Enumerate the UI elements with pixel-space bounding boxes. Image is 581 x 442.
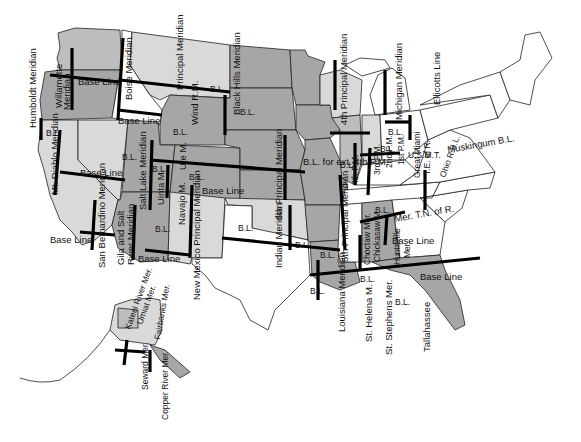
label-baseline-ca: Base Line xyxy=(80,167,122,178)
label-tallahassee: Tallahassee xyxy=(421,302,432,352)
label-nm-principal: New Mexico Principal Meridian xyxy=(191,170,202,300)
state-new-england xyxy=(500,32,552,105)
label-ute: Ute M. xyxy=(177,142,188,170)
label-humboldt: Humboldt Meridian xyxy=(27,48,38,128)
label-boise: Boise Meridian xyxy=(123,37,134,100)
label-bl-ar: B.L. xyxy=(320,250,335,260)
label-ellicotts: Ellicotts Line xyxy=(431,52,442,105)
label-4th-pm: 4th Principal Meridian xyxy=(338,34,349,125)
label-bl-uinta: B.L. xyxy=(152,164,167,174)
label-bl-fl: B.L. xyxy=(395,297,410,307)
label-huntsville: Huntsville xyxy=(392,228,402,265)
label-bl-tx: B.L. xyxy=(238,223,253,233)
state-arkansas xyxy=(305,205,342,242)
label-5th-pm: 5th Principal Meridian xyxy=(339,171,350,262)
label-michigan: Michigan Meridian xyxy=(393,43,404,120)
us-meridians-map: Humboldt Meridian Willamette Meridian Bo… xyxy=(0,0,581,442)
label-bl-black-hills: B.L. xyxy=(240,107,255,117)
label-bl-la: B.L. xyxy=(310,286,325,296)
label-seward: Seward Mer. xyxy=(140,342,150,390)
label-chickasaw: Chickasaw M. xyxy=(372,209,382,262)
label-gila-salt-2: River Meridian xyxy=(125,204,136,265)
label-baseline-az: Base Line xyxy=(138,253,180,264)
label-bl-il: B.L. xyxy=(340,160,355,170)
label-mt-diablo: Mt. Diablo Meridian xyxy=(49,113,60,195)
label-willamette-2: Meridian xyxy=(61,74,72,110)
label-choctaw: Choctaw Mer. xyxy=(362,213,372,265)
label-baseline-id: Base Line xyxy=(118,115,160,126)
label-navajo: Navajo M. xyxy=(176,182,187,225)
label-bl-ok: B.L. xyxy=(295,240,310,250)
alaska-panhandle xyxy=(150,345,190,378)
label-1st-pm: 1st P.M. xyxy=(396,135,406,165)
label-bl-oh: B.L. xyxy=(380,144,395,154)
label-baseline-fl: Base Line xyxy=(420,271,462,282)
label-bl-ute: B.L. xyxy=(189,172,204,182)
label-baseline-nm: Base Line xyxy=(202,185,244,196)
label-louisiana: Louisiana Meridian xyxy=(336,252,347,332)
label-st-helena: St. Helena M. xyxy=(363,284,374,342)
label-uinta: Uinta M. xyxy=(155,170,166,205)
aleutian-chain xyxy=(20,330,110,382)
state-michigan xyxy=(370,68,410,115)
label-wind-river: Wind R.M. xyxy=(189,81,200,125)
label-baseline-or: Base Line xyxy=(78,76,120,87)
label-san-bernardino: San Bernardino Meridian xyxy=(96,163,107,268)
label-salt-lake: Salt Lake Meridian xyxy=(137,131,148,210)
label-copper-river: Copper River Mer. xyxy=(160,351,170,420)
label-bl-humboldt: B.L. xyxy=(46,128,61,138)
label-black-hills: Black Hills Meridian xyxy=(231,32,242,115)
label-st-stephens: St. Stephens Mer. xyxy=(383,279,394,355)
label-baseline-socal: Base Line xyxy=(50,234,92,245)
label-bl-principal: B.L. xyxy=(210,84,225,94)
label-principal: Principal Meridian xyxy=(174,14,185,90)
label-usmt: U.S.M.T. xyxy=(408,150,441,160)
label-bl-salt-lake: B.L. xyxy=(122,152,137,162)
label-indian: Indian Meridian xyxy=(273,203,284,268)
label-bl-wind: B.L. xyxy=(173,127,188,137)
region-southwest xyxy=(38,120,310,330)
label-bl-ms: B.L. xyxy=(360,274,375,284)
state-washington xyxy=(57,28,122,70)
label-bl-mi: B.L. xyxy=(388,127,403,137)
label-bl-ky: B.L. xyxy=(375,205,390,215)
label-baseline-al: Base Line xyxy=(392,235,434,246)
label-bl-navajo: B.L. xyxy=(155,224,170,234)
